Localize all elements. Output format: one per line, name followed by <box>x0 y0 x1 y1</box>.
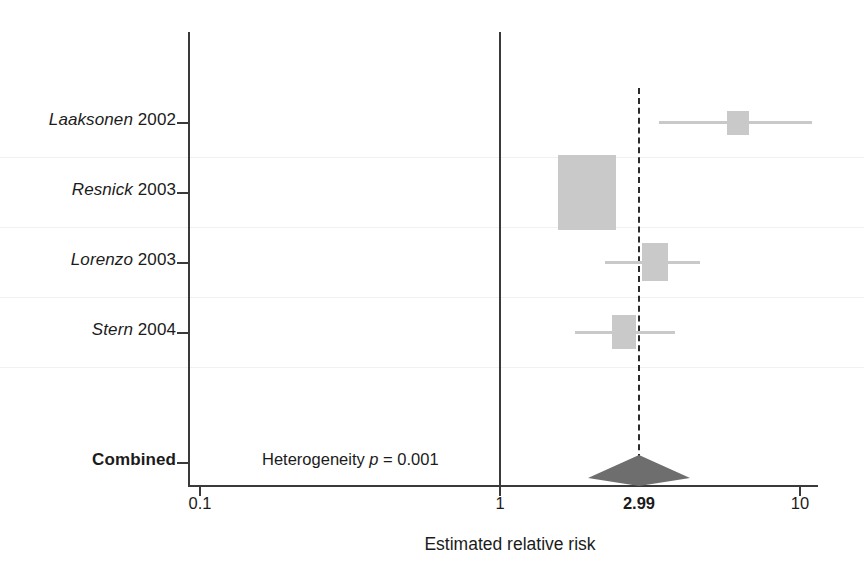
study-author: Resnick <box>72 180 133 199</box>
study-year: 2003 <box>138 180 176 199</box>
x-axis-title: Estimated relative risk <box>424 534 595 555</box>
x-tick-label-low: 0.1 <box>189 494 212 513</box>
effect-estimate-box <box>612 315 636 349</box>
effect-estimate-box <box>558 155 616 230</box>
y-axis-tick <box>177 262 188 264</box>
x-tick-label-high: 10 <box>791 494 809 513</box>
scan-gridline <box>0 367 864 368</box>
y-axis-line <box>188 32 190 486</box>
effect-estimate-box <box>727 111 749 135</box>
forest-plot: Laaksonen 2002 Resnick 2003 Lorenzo 2003… <box>0 0 864 575</box>
study-author: Lorenzo <box>71 250 133 269</box>
scan-gridline <box>0 227 864 228</box>
scan-gridline <box>0 157 864 158</box>
y-axis-tick <box>177 462 188 464</box>
summary-estimate-label: 2.99 <box>623 494 655 513</box>
study-author: Laaksonen <box>49 110 133 129</box>
study-label-resnick: Resnick 2003 <box>72 180 176 200</box>
study-year: 2004 <box>138 320 176 339</box>
study-label-laaksonen: Laaksonen 2002 <box>49 110 176 130</box>
null-effect-line <box>499 32 501 486</box>
study-year: 2002 <box>138 110 176 129</box>
heterogeneity-prefix: Heterogeneity <box>262 450 365 468</box>
heterogeneity-value: = 0.001 <box>383 450 439 468</box>
heterogeneity-annotation: Heterogeneity p = 0.001 <box>262 450 439 469</box>
effect-estimate-box <box>642 243 668 281</box>
study-label-lorenzo: Lorenzo 2003 <box>71 250 176 270</box>
study-year: 2003 <box>138 250 176 269</box>
scan-gridline <box>0 297 864 298</box>
x-axis-line <box>188 485 818 487</box>
study-author: Stern <box>92 320 133 339</box>
y-axis-tick <box>177 122 188 124</box>
study-label-stern: Stern 2004 <box>92 320 176 340</box>
x-tick-label-null: 1 <box>495 494 504 513</box>
y-axis-tick <box>177 192 188 194</box>
p-value-symbol: p <box>369 450 378 468</box>
summary-reference-line <box>638 88 640 470</box>
summary-diamond <box>588 455 690 486</box>
study-label-combined: Combined <box>92 450 176 470</box>
y-axis-tick <box>177 332 188 334</box>
